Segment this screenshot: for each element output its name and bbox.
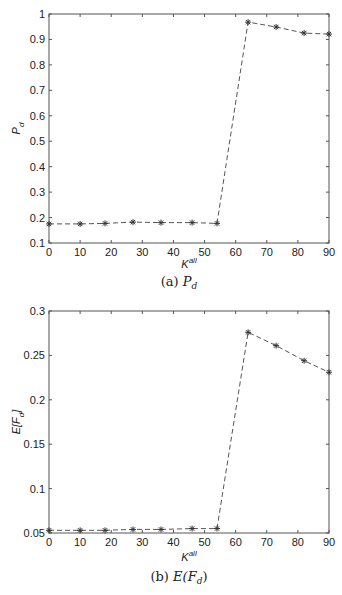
data-point-marker <box>46 221 52 227</box>
x-tick-label: 0 <box>46 536 52 548</box>
x-tick-label: 50 <box>198 536 210 548</box>
x-tick-label: 60 <box>230 536 242 548</box>
x-tick-label: 90 <box>323 536 335 548</box>
plot-frame <box>49 14 329 243</box>
y-axis-label: Pd <box>10 122 26 134</box>
data-point-marker <box>189 220 195 226</box>
y-tick-label: 0.5 <box>30 135 45 147</box>
x-tick-label: 30 <box>136 536 148 548</box>
figure-caption: (b) E(Fd) <box>150 569 207 586</box>
x-tick-label: 70 <box>261 246 273 258</box>
data-point-marker <box>46 527 52 533</box>
data-point-marker <box>158 220 164 226</box>
x-tick-label: 10 <box>74 536 86 548</box>
y-tick-label: 0.25 <box>24 349 45 361</box>
chart-panel-b: 01020304050607080900.050.10.150.20.250.3… <box>10 305 335 586</box>
data-point-marker <box>158 526 164 532</box>
y-tick-label: 0.15 <box>24 438 45 450</box>
x-tick-label: 20 <box>105 536 117 548</box>
x-tick-label: 40 <box>167 536 179 548</box>
x-tick-label: 50 <box>198 246 210 258</box>
series-line <box>49 332 329 530</box>
data-point-marker <box>326 31 332 37</box>
x-axis-label: Kall <box>181 256 197 270</box>
x-tick-label: 10 <box>74 246 86 258</box>
data-point-marker <box>245 329 251 335</box>
y-tick-label: 1 <box>39 8 45 20</box>
y-tick-label: 0.05 <box>24 527 45 539</box>
data-point-marker <box>130 526 136 532</box>
y-tick-label: 0.1 <box>30 237 45 249</box>
y-tick-label: 0.3 <box>30 186 45 198</box>
data-point-marker <box>77 527 83 533</box>
data-point-marker <box>301 358 307 364</box>
y-tick-label: 0.2 <box>30 212 45 224</box>
x-tick-label: 0 <box>46 246 52 258</box>
data-point-marker <box>214 220 220 226</box>
x-tick-label: 80 <box>292 536 304 548</box>
x-tick-label: 70 <box>261 536 273 548</box>
x-tick-label: 90 <box>323 246 335 258</box>
x-tick-label: 40 <box>167 246 179 258</box>
figure: 01020304050607080900.10.20.30.40.50.60.7… <box>0 0 342 595</box>
x-tick-label: 30 <box>136 246 148 258</box>
series-line <box>49 22 329 224</box>
data-point-marker <box>245 19 251 25</box>
data-point-marker <box>130 219 136 225</box>
y-tick-label: 0.7 <box>30 84 45 96</box>
x-tick-label: 60 <box>230 246 242 258</box>
data-point-marker <box>326 369 332 375</box>
data-point-marker <box>301 30 307 36</box>
data-point-marker <box>77 221 83 227</box>
data-point-marker <box>273 24 279 30</box>
plot-frame <box>49 311 329 533</box>
data-point-marker <box>102 220 108 226</box>
y-tick-label: 0.4 <box>30 161 45 173</box>
y-tick-label: 0.8 <box>30 59 45 71</box>
data-point-marker <box>273 343 279 349</box>
x-axis-label: Kall <box>181 549 197 563</box>
chart-panel-a: 01020304050607080900.10.20.30.40.50.60.7… <box>10 8 335 291</box>
y-tick-label: 0.2 <box>30 394 45 406</box>
y-tick-label: 0.1 <box>30 483 45 495</box>
data-point-marker <box>214 526 220 532</box>
x-tick-label: 80 <box>292 246 304 258</box>
data-point-marker <box>189 526 195 532</box>
y-axis-label: E[Fd] <box>10 409 26 435</box>
y-tick-label: 0.9 <box>30 33 45 45</box>
y-tick-label: 0.6 <box>30 110 45 122</box>
x-tick-label: 20 <box>105 246 117 258</box>
data-point-marker <box>102 527 108 533</box>
y-tick-label: 0.3 <box>30 305 45 317</box>
figure-caption: (a) Pd <box>161 274 198 291</box>
